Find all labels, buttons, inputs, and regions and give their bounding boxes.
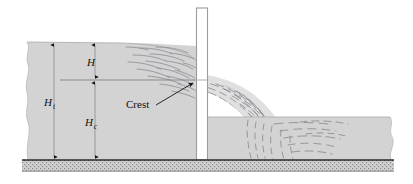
dimension-Ht-label: H: [43, 96, 53, 108]
upstream-water-fill: [26, 42, 200, 160]
upstream-water-body: [26, 42, 200, 160]
dimension-H-label: H: [86, 56, 96, 68]
weir-plate: [197, 8, 208, 160]
weir-diagram-figure: H H t H c Crest: [0, 0, 413, 184]
dimension-Hc-label: H: [84, 116, 94, 128]
crest-callout-label: Crest: [126, 98, 149, 110]
weir-plate-body: [197, 8, 208, 160]
downstream-water-body: [208, 117, 393, 160]
ground-hatch-band: [22, 160, 394, 171]
weir-diagram-svg: H H t H c Crest: [0, 0, 413, 184]
downstream-water-fill: [208, 117, 393, 160]
ground-bed: [22, 160, 394, 171]
